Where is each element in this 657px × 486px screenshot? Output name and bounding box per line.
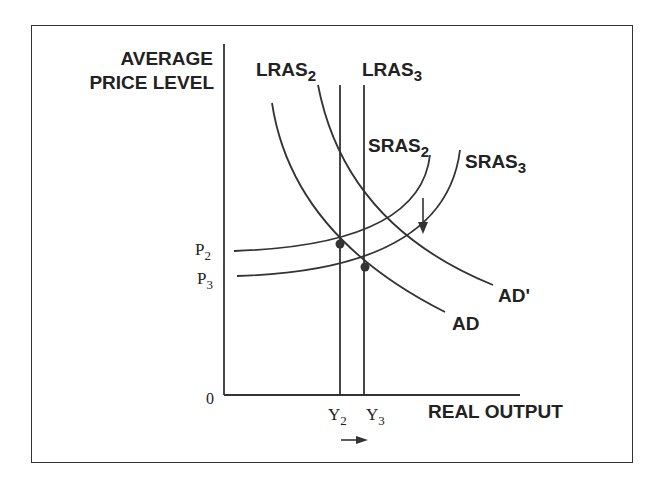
output-tick-y2: Y2 bbox=[328, 405, 347, 428]
arrow-down-icon bbox=[418, 198, 428, 234]
ad-prime-label: AD' bbox=[498, 285, 530, 306]
price-tick-p2: P2 bbox=[195, 240, 211, 263]
equilibrium-dot-e3 bbox=[361, 263, 370, 272]
arrow-right-icon bbox=[341, 436, 368, 444]
axes bbox=[224, 44, 520, 395]
ad-prime-curve bbox=[318, 85, 493, 285]
sras3-label: SRAS3 bbox=[465, 151, 526, 176]
x-axis-label: REAL OUTPUT bbox=[428, 401, 563, 422]
origin-label: 0 bbox=[206, 390, 214, 407]
lras3-label: LRAS3 bbox=[362, 59, 422, 84]
output-tick-y3: Y3 bbox=[366, 405, 385, 428]
equilibrium-dot-e2 bbox=[336, 240, 345, 249]
lras2-label: LRAS2 bbox=[256, 59, 316, 84]
sras2-label: SRAS2 bbox=[368, 135, 429, 160]
y-axis-label-line2: PRICE LEVEL bbox=[89, 72, 214, 93]
ad-label: AD bbox=[452, 313, 479, 334]
as-ad-diagram: AVERAGE PRICE LEVEL REAL OUTPUT 0 P2 P3 … bbox=[0, 0, 657, 486]
sras2-curve bbox=[234, 155, 430, 251]
price-tick-p3: P3 bbox=[197, 269, 213, 292]
y-axis-label-line1: AVERAGE bbox=[120, 48, 213, 69]
